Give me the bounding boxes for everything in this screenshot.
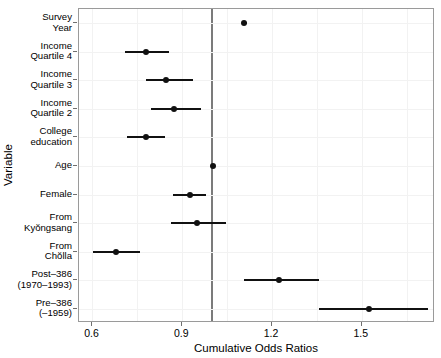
y-tick-mark (73, 194, 77, 195)
y-tick-label-line1: Income (41, 39, 72, 50)
estimate-point (241, 20, 247, 26)
y-tick-mark (73, 251, 77, 252)
y-tick-label: Age (14, 160, 72, 171)
y-tick-label-line2: Quartile 2 (14, 108, 72, 119)
grid-line-vertical (92, 9, 93, 321)
x-tick-label: 0.6 (84, 327, 99, 339)
y-tick-label-line2: Quartile 4 (14, 51, 72, 62)
y-tick-label: Pre–386(–1959) (14, 297, 72, 318)
grid-line-horizontal (79, 23, 433, 24)
grid-line-vertical (362, 9, 363, 321)
y-tick-mark (73, 22, 77, 23)
grid-line-vertical (227, 9, 228, 321)
y-tick-label-line1: Female (40, 187, 72, 198)
confidence-interval-bar (319, 308, 428, 310)
y-tick-mark (73, 222, 77, 223)
y-tick-mark (73, 108, 77, 109)
y-tick-label: Female (14, 188, 72, 199)
y-tick-label-line1: Age (55, 159, 72, 170)
y-tick-mark (73, 165, 77, 166)
y-tick-label-line2: Kyŏngsang (14, 222, 72, 233)
grid-line-vertical (317, 9, 318, 321)
grid-line-horizontal (79, 80, 433, 81)
y-tick-label-line1: Pre–386 (36, 296, 72, 307)
y-tick-label: IncomeQuartile 4 (14, 40, 72, 61)
forest-plot: Variable SurveyYearIncomeQuartile 4Incom… (0, 0, 441, 358)
x-tick-label: 1.2 (264, 327, 279, 339)
y-tick-label-line1: Income (41, 96, 72, 107)
x-tick-mark (361, 322, 362, 326)
x-tick-label: 1.5 (353, 327, 368, 339)
y-tick-label: SurveyYear (14, 12, 72, 33)
y-tick-mark (73, 308, 77, 309)
grid-line-horizontal (79, 166, 433, 167)
estimate-point (113, 249, 119, 255)
y-tick-label-line1: Post–386 (31, 268, 72, 279)
y-tick-label-line2: Quartile 3 (14, 79, 72, 90)
y-tick-mark (73, 279, 77, 280)
y-tick-label-line1: College (39, 125, 72, 136)
y-tick-label: FromChŏlla (14, 240, 72, 261)
grid-line-vertical (137, 9, 138, 321)
grid-line-horizontal (79, 223, 433, 224)
grid-line-vertical (272, 9, 273, 321)
grid-line-vertical (407, 9, 408, 321)
y-tick-label: IncomeQuartile 2 (14, 97, 72, 118)
y-tick-mark (73, 51, 77, 52)
confidence-interval-bar (146, 79, 193, 81)
x-tick-mark (181, 322, 182, 326)
estimate-point (171, 106, 177, 112)
y-tick-label-line2: Year (14, 22, 72, 33)
y-tick-label-line2: (–1959) (14, 308, 72, 319)
y-tick-label-line2: Chŏlla (14, 251, 72, 262)
y-axis-title-text: Variable (2, 144, 14, 186)
y-tick-label: IncomeQuartile 3 (14, 69, 72, 90)
y-tick-mark (73, 136, 77, 137)
y-tick-label: Collegeeducation (14, 126, 72, 147)
estimate-point (366, 306, 372, 312)
estimate-point (210, 163, 216, 169)
x-tick-label: 0.9 (174, 327, 189, 339)
grid-line-vertical (182, 9, 183, 321)
y-tick-label-line1: Survey (42, 11, 72, 22)
y-tick-label: Post–386(1970–1993) (14, 269, 72, 290)
y-tick-label-line1: From (50, 211, 72, 222)
plot-panel (78, 8, 434, 322)
estimate-point (143, 134, 149, 140)
grid-line-horizontal (79, 109, 433, 110)
y-tick-label-line1: From (50, 239, 72, 250)
y-tick-label-line1: Income (41, 68, 72, 79)
x-tick-mark (91, 322, 92, 326)
x-tick-mark (271, 322, 272, 326)
y-tick-label-line2: education (14, 136, 72, 147)
y-tick-mark (73, 79, 77, 80)
estimate-point (276, 277, 282, 283)
estimate-point (194, 220, 200, 226)
x-axis-title: Cumulative Odds Ratios (78, 342, 434, 354)
y-tick-label-line2: (1970–1993) (14, 279, 72, 290)
y-tick-label: FromKyŏngsang (14, 212, 72, 233)
estimate-point (163, 77, 169, 83)
estimate-point (143, 49, 149, 55)
estimate-point (187, 192, 193, 198)
grid-line-horizontal (79, 195, 433, 196)
y-axis-tick-labels: SurveyYearIncomeQuartile 4IncomeQuartile… (14, 8, 72, 322)
